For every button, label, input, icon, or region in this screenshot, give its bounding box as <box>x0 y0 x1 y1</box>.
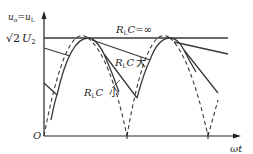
peak-voltage-label: √2U2 <box>6 32 36 46</box>
label-rlc-small: RLC小 <box>83 87 119 99</box>
y-axis-arrow-icon <box>42 11 47 19</box>
waveform-svg: uo=uL √2U2 O ωt RLC=∞ RLC大 RLC小 <box>0 0 253 154</box>
rectified-sine-dashed <box>44 36 218 136</box>
label-rlc-infinite: RLC=∞ <box>115 24 152 36</box>
origin-label: O <box>33 130 41 141</box>
sine-charging-solid-lower <box>51 50 196 120</box>
label-rlc-large: RLC大 <box>114 56 146 69</box>
x-axis-label: ωt <box>230 143 243 154</box>
y-axis-label: uo=uL <box>8 12 35 23</box>
rectifier-waveform-diagram: uo=uL √2U2 O ωt RLC=∞ RLC大 RLC小 <box>0 0 253 154</box>
x-axis-arrow-icon <box>233 134 241 139</box>
